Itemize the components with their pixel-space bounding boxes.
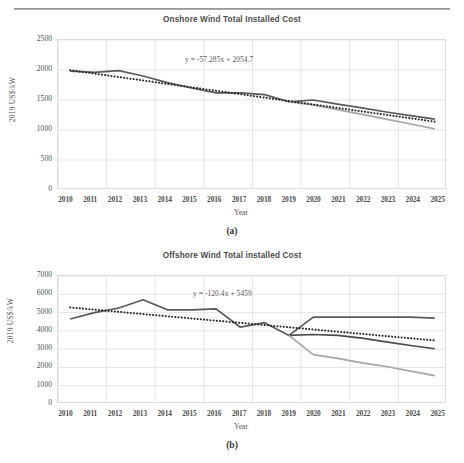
y-tick-label: 4000: [37, 326, 52, 334]
x-tick-label: 2022: [351, 195, 376, 204]
y-tick-label: 0: [48, 399, 52, 407]
y-tick-label: 500: [41, 155, 52, 163]
x-tick-label: 2016: [202, 195, 227, 204]
x-tick-label: 2025: [425, 409, 450, 418]
x-tick-label: 2023: [376, 409, 401, 418]
figure-b: Offshore Wind Total installed Cost 2019 …: [0, 248, 464, 463]
chart-a-trend-equation: y = -57.285x + 2054.7: [185, 55, 253, 64]
x-tick-label: 2021: [326, 409, 351, 418]
chart-b-area: 2019 US$/kW 7000600050004000300020001000…: [0, 261, 464, 411]
x-tick-label: 2010: [53, 195, 78, 204]
y-tick-label: 7000: [37, 271, 52, 279]
x-tick-label: 2020: [301, 409, 326, 418]
chart-b-title: Offshore Wind Total installed Cost: [0, 248, 464, 261]
x-tick-label: 2014: [152, 409, 177, 418]
x-tick-label: 2015: [177, 409, 202, 418]
x-tick-label: 2019: [276, 409, 301, 418]
x-tick-label: 2019: [276, 195, 301, 204]
y-tick-label: 1000: [37, 381, 52, 389]
y-tick-label: 3000: [37, 344, 52, 352]
x-tick-label: 2025: [425, 195, 450, 204]
x-tick-label: 2013: [127, 409, 152, 418]
figure-b-caption: (b): [0, 440, 464, 450]
series-line: [289, 335, 435, 349]
x-tick-label: 2018: [252, 409, 277, 418]
chart-a-x-axis-label: Year: [0, 208, 464, 217]
chart-a-area: 2019 US$/kW 25002000150010005000 y = -57…: [0, 25, 464, 200]
figure-a-caption: (a): [0, 226, 464, 236]
x-tick-label: 2021: [326, 195, 351, 204]
x-tick-label: 2022: [351, 409, 376, 418]
x-tick-label: 2011: [78, 195, 103, 204]
y-tick-label: 1000: [37, 125, 52, 133]
x-tick-label: 2023: [376, 195, 401, 204]
y-tick-label: 2000: [37, 362, 52, 370]
y-tick-label: 2500: [37, 35, 52, 43]
chart-b-x-axis-label: Year: [0, 422, 464, 431]
figure-a: Onshore Wind Total Installed Cost 2019 U…: [0, 12, 464, 242]
header-rule: [14, 8, 450, 10]
document-page: Onshore Wind Total Installed Cost 2019 U…: [0, 0, 464, 463]
x-tick-label: 2013: [127, 195, 152, 204]
chart-a-x-ticks: 2010201120122013201420152016201720182019…: [53, 195, 450, 204]
chart-b-x-ticks: 2010201120122013201420152016201720182019…: [53, 409, 450, 418]
page-header: [0, 0, 464, 11]
chart-a-title: Onshore Wind Total Installed Cost: [0, 12, 464, 25]
x-tick-label: 2012: [103, 409, 128, 418]
y-tick-label: 6000: [37, 289, 52, 297]
y-tick-label: 0: [48, 185, 52, 193]
chart-b-svg: [58, 276, 446, 403]
x-tick-label: 2024: [400, 195, 425, 204]
chart-b-y-ticks: 70006000500040003000200010000: [0, 261, 52, 411]
x-tick-label: 2020: [301, 195, 326, 204]
x-tick-label: 2011: [78, 409, 103, 418]
chart-b-trend-equation: y = -120.4x + 5459: [193, 289, 252, 298]
x-tick-label: 2017: [227, 409, 252, 418]
y-tick-label: 1500: [37, 95, 52, 103]
x-tick-label: 2015: [177, 195, 202, 204]
x-tick-label: 2014: [152, 195, 177, 204]
y-tick-label: 5000: [37, 308, 52, 316]
y-tick-label: 2000: [37, 65, 52, 73]
series-line: [289, 335, 435, 375]
x-tick-label: 2017: [227, 195, 252, 204]
x-tick-label: 2012: [103, 195, 128, 204]
x-tick-label: 2016: [202, 409, 227, 418]
chart-a-y-ticks: 25002000150010005000: [0, 25, 52, 200]
x-tick-label: 2018: [252, 195, 277, 204]
x-tick-label: 2024: [400, 409, 425, 418]
x-tick-label: 2010: [53, 409, 78, 418]
